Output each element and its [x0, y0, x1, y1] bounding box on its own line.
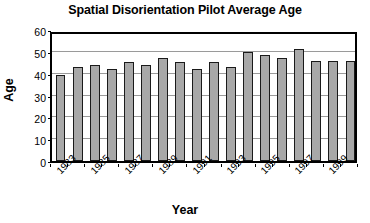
bar: [209, 62, 219, 161]
x-axis-label: Year: [0, 203, 370, 217]
bar: [107, 69, 117, 161]
bar: [141, 65, 151, 161]
x-tick-mark: [118, 164, 119, 167]
bar: [277, 58, 287, 161]
y-axis-ticks: 0102030405060: [20, 32, 46, 163]
y-axis-label: Age: [2, 70, 16, 110]
bar: [328, 61, 338, 161]
bar-chart: Spatial Disorientation Pilot Average Age…: [0, 0, 370, 223]
bar: [56, 75, 66, 161]
x-tick-mark: [357, 164, 358, 167]
x-tick-mark: [50, 164, 51, 167]
bar: [73, 67, 83, 161]
y-tick-label: 20: [24, 114, 46, 124]
bar: [175, 62, 185, 161]
bar: [158, 58, 168, 161]
bar: [311, 61, 321, 161]
x-tick-mark: [289, 164, 290, 167]
bar: [260, 55, 270, 161]
x-tick-mark: [221, 164, 222, 167]
bar: [294, 49, 304, 161]
x-tick-mark: [323, 164, 324, 167]
bar: [243, 52, 253, 161]
y-tick-label: 10: [24, 136, 46, 146]
y-tick-label: 50: [24, 49, 46, 59]
y-tick-label: 40: [24, 71, 46, 81]
x-tick-mark: [186, 164, 187, 167]
y-tick-label: 30: [24, 93, 46, 103]
x-tick-mark: [84, 164, 85, 167]
bar: [226, 67, 236, 161]
chart-title: Spatial Disorientation Pilot Average Age: [0, 3, 370, 17]
y-tick-label: 0: [24, 158, 46, 168]
bar: [90, 65, 100, 161]
bars-container: [52, 34, 355, 161]
bar: [346, 61, 356, 161]
y-tick-label: 60: [24, 27, 46, 37]
bar: [192, 69, 202, 161]
plot-area: [50, 32, 357, 163]
x-axis-ticks: 198319851987198919911993199519971999: [50, 164, 357, 202]
x-tick-mark: [152, 164, 153, 167]
bar: [124, 62, 134, 161]
x-tick-mark: [255, 164, 256, 167]
